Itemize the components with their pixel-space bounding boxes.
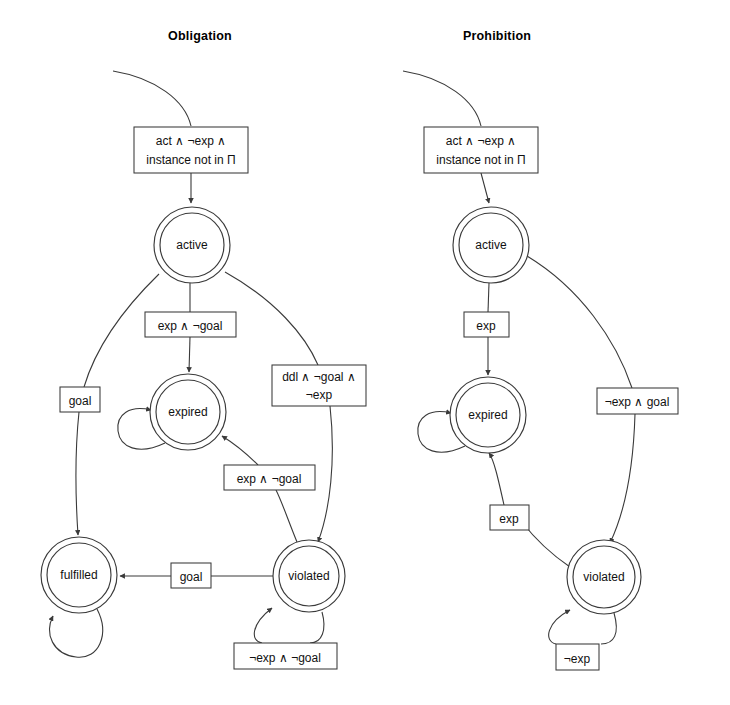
state-machine-figure: Obligation active	[0, 0, 730, 705]
transition-init-active	[481, 173, 489, 203]
transition-violated-self-left	[254, 608, 272, 643]
transition-violated-self-left	[549, 610, 570, 644]
guard-label-line1: ddl ∧ ¬goal ∧	[282, 370, 356, 384]
transition-start-init	[403, 71, 481, 126]
state-node-violated[interactable]: violated	[567, 540, 641, 614]
guard-label-line1: exp ∧ ¬goal	[158, 319, 223, 333]
transition-active-violated-upper	[527, 256, 632, 388]
transition-violated-expired-upper	[489, 453, 504, 505]
state-label: expired	[468, 408, 507, 422]
guard-violated-fulfilled: goal	[171, 563, 211, 588]
panel-title-obligation: Obligation	[168, 29, 232, 43]
state-node-active[interactable]: active	[154, 207, 230, 283]
guard-init: act ∧ ¬exp ∧ instance not in Π	[424, 127, 538, 173]
guard-active-fulfilled: goal	[60, 387, 100, 412]
transition-active-fulfilled-lower	[76, 412, 79, 535]
guard-label-line1: goal	[69, 394, 92, 408]
state-label: violated	[583, 570, 624, 584]
guard-violated-expired: exp ∧ ¬goal	[224, 465, 315, 490]
guard-label-line1: exp ∧ ¬goal	[237, 472, 302, 486]
transition-violated-expired-upper	[222, 436, 258, 465]
transition-active-violated-upper	[225, 272, 318, 365]
transition-violated-self-right	[601, 613, 616, 644]
state-node-expired[interactable]: expired	[150, 374, 226, 450]
guard-violated-expired: exp	[490, 505, 529, 530]
guard-label-line2: instance not in Π	[146, 153, 235, 167]
guard-active-expired: exp	[464, 312, 509, 337]
state-node-violated[interactable]: violated	[273, 540, 345, 612]
panel-prohibition: Prohibition active expired	[403, 29, 678, 670]
guard-label-line2: instance not in Π	[436, 153, 525, 167]
state-label: expired	[168, 405, 207, 419]
guard-label-line2: ¬exp	[306, 388, 333, 402]
guard-label-line1: exp	[476, 319, 496, 333]
guard-label-line1: act ∧ ¬exp ∧	[156, 134, 226, 148]
guard-violated-self: ¬exp ∧ ¬goal	[234, 643, 337, 669]
state-node-active[interactable]: active	[453, 207, 529, 283]
state-label: active	[475, 238, 507, 252]
guard-active-expired: exp ∧ ¬goal	[145, 312, 236, 337]
guard-violated-self: ¬exp	[556, 644, 599, 670]
guard-label-line1: ¬exp ∧ ¬goal	[249, 651, 321, 665]
guard-active-violated: ¬exp ∧ goal	[597, 388, 678, 414]
transition-active-expired-upper	[488, 283, 489, 312]
transition-active-violated-lower	[610, 414, 635, 543]
guard-label-line1: act ∧ ¬exp ∧	[446, 134, 516, 148]
diagram-canvas: Obligation active	[0, 0, 730, 705]
transition-active-expired-lower	[189, 337, 190, 372]
transition-violated-expired-lower	[276, 490, 297, 542]
state-label: violated	[288, 569, 329, 583]
transition-violated-self-right	[310, 612, 324, 643]
guard-init: act ∧ ¬exp ∧ instance not in Π	[134, 127, 248, 173]
state-node-fulfilled[interactable]: fulfilled	[41, 537, 117, 613]
transition-start-init	[113, 71, 191, 126]
guard-active-violated: ddl ∧ ¬goal ∧ ¬exp	[272, 365, 366, 406]
guard-label-line1: goal	[180, 570, 203, 584]
panel-obligation: Obligation active	[41, 29, 366, 669]
guard-label-line1: ¬exp ∧ goal	[605, 395, 670, 409]
guard-label-line1: ¬exp	[564, 652, 591, 666]
state-label: fulfilled	[60, 568, 97, 582]
state-node-expired[interactable]: expired	[450, 377, 526, 453]
guard-label-line1: exp	[499, 512, 519, 526]
panel-title-prohibition: Prohibition	[463, 29, 531, 43]
transition-fulfilled-self	[50, 609, 103, 657]
transition-active-violated-lower	[318, 406, 332, 542]
state-label: active	[176, 238, 208, 252]
